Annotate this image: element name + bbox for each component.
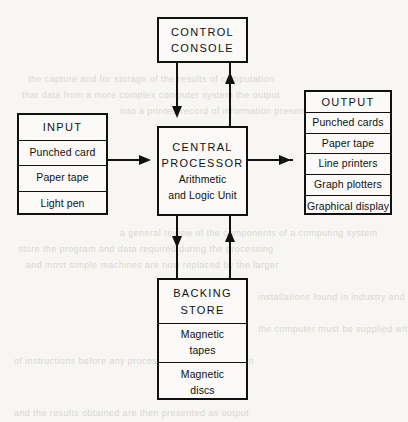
output-item-line-printers: Line printers: [306, 154, 390, 175]
ghost-text-line: and most simple machines are now replace…: [26, 260, 279, 270]
backing-store-line-1: BACKING: [173, 285, 232, 302]
input-header-label: INPUT: [43, 119, 83, 136]
input-item-label: Paper tape: [36, 170, 88, 186]
output-box: OUTPUT Punched cards Paper tape Line pri…: [304, 90, 392, 215]
connector-backing-store-to-cpu-arrowhead: [225, 230, 235, 242]
input-item-paper-tape: Paper tape: [19, 166, 106, 192]
central-processor-box: CENTRAL PROCESSOR Arithmetic and Logic U…: [157, 126, 248, 216]
output-item-label: Punched cards: [312, 115, 383, 131]
output-item-label: Line printers: [318, 156, 377, 172]
output-item-graphical-display: Graphical display: [306, 196, 390, 217]
output-item-label: Graphical display: [307, 199, 389, 215]
backing-store-item-line-1: Magnetic: [181, 367, 224, 383]
backing-store-item-line-2: discs: [190, 383, 214, 399]
control-console-line-2: CONSOLE: [171, 40, 234, 57]
control-console-line-1: CONTROL: [171, 24, 234, 41]
ghost-text-line: store the program and data required duri…: [18, 244, 273, 254]
input-item-punched-card: Punched card: [19, 141, 106, 167]
connector-cpu-to-backing-store-arrowhead: [172, 236, 182, 248]
connector-cpu-to-console-arrowhead: [225, 72, 235, 84]
output-item-label: Paper tape: [322, 136, 374, 152]
ghost-text-line: that data from a more complex computer s…: [22, 90, 280, 100]
backing-store-item-line-2: tapes: [189, 343, 215, 359]
output-item-graph-plotters: Graph plotters: [306, 175, 390, 196]
control-console-header: CONTROL CONSOLE: [159, 19, 246, 61]
central-processor-line-2: PROCESSOR: [162, 155, 244, 172]
input-header: INPUT: [19, 115, 106, 141]
ghost-text-line: a general review of the components of a …: [120, 228, 378, 238]
input-item-label: Light pen: [40, 196, 84, 212]
backing-store-box: BACKING STORE Magnetic tapes Magnetic di…: [157, 278, 248, 400]
central-processor-content: CENTRAL PROCESSOR Arithmetic and Logic U…: [159, 128, 246, 214]
ghost-text-line: the computer must be supplied with a com…: [258, 324, 408, 334]
ghost-text-line: and the results obtained are then presen…: [14, 408, 249, 418]
output-header-label: OUTPUT: [321, 94, 374, 111]
input-item-label: Punched card: [30, 145, 96, 161]
input-item-light-pen: Light pen: [19, 192, 106, 218]
backing-store-item-magnetic-tapes: Magnetic tapes: [159, 324, 246, 363]
output-item-paper-tape: Paper tape: [306, 134, 390, 155]
ghost-text-line: installations found in industry and in c…: [258, 292, 408, 302]
output-item-punched-cards: Punched cards: [306, 113, 390, 134]
connector-console-to-cpu-arrowhead: [172, 106, 182, 118]
backing-store-header: BACKING STORE: [159, 280, 246, 324]
control-console-box: CONTROL CONSOLE: [157, 17, 248, 63]
input-box: INPUT Punched card Paper tape Light pen: [17, 113, 108, 215]
backing-store-item-line-1: Magnetic: [181, 327, 224, 343]
backing-store-item-magnetic-discs: Magnetic discs: [159, 363, 246, 402]
connector-cpu-to-output-arrowhead: [279, 155, 291, 165]
backing-store-line-2: STORE: [180, 302, 224, 319]
connector-backing-store-to-cpu-line: [229, 216, 231, 278]
central-processor-sub-line-2: and Logic Unit: [168, 188, 237, 204]
output-item-label: Graph plotters: [314, 177, 382, 193]
ghost-text-line: the capture and for storage of the resul…: [28, 74, 274, 84]
output-header: OUTPUT: [306, 92, 390, 113]
central-processor-sub-line-1: Arithmetic: [179, 172, 227, 188]
block-diagram: the capture and for storage of the resul…: [0, 0, 408, 422]
central-processor-line-1: CENTRAL: [172, 139, 232, 156]
connector-input-to-cpu-arrowhead: [139, 155, 151, 165]
